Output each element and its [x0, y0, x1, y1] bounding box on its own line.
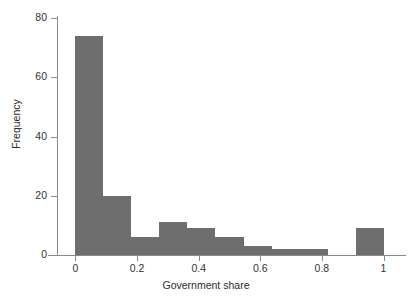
x-tick-label: 0.8	[315, 263, 330, 274]
x-tick-mark	[75, 256, 76, 261]
y-tick-mark	[51, 255, 57, 256]
x-axis-line	[48, 255, 406, 256]
y-tick-label: 60	[0, 71, 47, 82]
histogram-bar	[103, 196, 131, 255]
histogram-bar	[300, 249, 328, 255]
x-axis-title: Government share	[0, 279, 412, 291]
histogram-bars	[57, 0, 402, 255]
histogram-bar	[356, 228, 384, 255]
histogram-bar	[131, 237, 159, 255]
x-tick-mark	[322, 256, 323, 261]
x-tick-label: 0.2	[130, 263, 145, 274]
histogram-figure: Frequency 020406080 00.20.40.60.81 Gover…	[0, 0, 412, 299]
histogram-bar	[244, 246, 272, 255]
y-tick-label: 40	[0, 131, 47, 142]
x-tick-mark	[260, 256, 261, 261]
histogram-bar	[215, 237, 243, 255]
x-tick-mark	[199, 256, 200, 261]
x-tick-label: 0.4	[191, 263, 206, 274]
y-tick-label: 20	[0, 190, 47, 201]
histogram-bar	[159, 222, 187, 255]
x-tick-label: 0	[73, 263, 79, 274]
histogram-bar	[272, 249, 300, 255]
histogram-bar	[75, 36, 103, 255]
x-tick-label: 1	[381, 263, 387, 274]
y-tick-label: 80	[0, 12, 47, 23]
x-tick-label: 0.6	[253, 263, 268, 274]
x-tick-mark	[384, 256, 385, 261]
y-axis-title: Frequency	[10, 69, 22, 179]
histogram-bar	[187, 228, 215, 255]
x-tick-mark	[137, 256, 138, 261]
y-tick-label: 0	[0, 249, 47, 260]
